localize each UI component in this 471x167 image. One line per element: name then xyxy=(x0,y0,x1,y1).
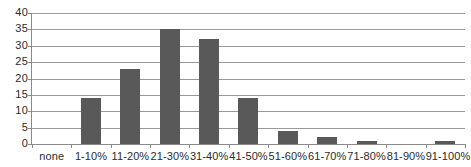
bar-slot xyxy=(189,13,228,144)
x-axis-category-label: 1-10% xyxy=(71,150,110,163)
x-axis-category-label: 71-80% xyxy=(347,150,386,163)
y-axis-tick-mark xyxy=(28,29,32,30)
bar-slot xyxy=(32,13,71,144)
y-axis-tick-labels: 0510152025303540 xyxy=(0,0,28,167)
x-axis-category-label: 31-40% xyxy=(189,150,228,163)
bar-chart: 0510152025303540 none1-10%11-20%21-30%31… xyxy=(0,0,471,167)
bar[interactable] xyxy=(160,29,180,144)
bar-slot xyxy=(71,13,110,144)
x-axis-category-label: 51-60% xyxy=(268,150,307,163)
x-axis-tick-mark xyxy=(426,144,427,148)
bar-slot xyxy=(386,13,425,144)
x-axis-tick-mark xyxy=(268,144,269,148)
bar-slot xyxy=(426,13,465,144)
bar[interactable] xyxy=(81,98,101,144)
y-axis-tick-label: 0 xyxy=(0,138,28,149)
x-axis-tick-mark xyxy=(32,144,33,148)
x-axis-tick-mark xyxy=(465,144,466,148)
x-axis-tick-mark xyxy=(189,144,190,148)
bar-slot xyxy=(229,13,268,144)
x-axis-category-label: 61-70% xyxy=(308,150,347,163)
bar-slot xyxy=(308,13,347,144)
x-axis-category-labels: none1-10%11-20%21-30%31-40%41-50%51-60%6… xyxy=(32,150,465,167)
y-axis-tick-label: 40 xyxy=(0,7,28,18)
y-axis-tick-mark xyxy=(28,95,32,96)
bar-slot xyxy=(150,13,189,144)
bar[interactable] xyxy=(278,131,298,144)
x-axis-tick-mark xyxy=(308,144,309,148)
x-axis-tick-mark xyxy=(347,144,348,148)
x-axis-tick-mark xyxy=(150,144,151,148)
y-axis-tick-mark xyxy=(28,79,32,80)
bar[interactable] xyxy=(120,69,140,144)
x-axis-tick-mark xyxy=(229,144,230,148)
x-axis-category-label: 41-50% xyxy=(229,150,268,163)
y-axis-tick-label: 20 xyxy=(0,73,28,84)
bar-slot xyxy=(347,13,386,144)
y-axis-tick-label: 35 xyxy=(0,23,28,34)
y-axis-tick-mark xyxy=(28,13,32,14)
y-axis-tick-label: 25 xyxy=(0,56,28,67)
bar[interactable] xyxy=(199,39,219,144)
x-axis-tick-marks xyxy=(32,144,465,149)
x-axis-category-label: none xyxy=(32,150,71,163)
x-axis-category-label: 21-30% xyxy=(150,150,189,163)
bar-slot xyxy=(268,13,307,144)
y-axis-tick-label: 30 xyxy=(0,40,28,51)
y-axis-tick-mark xyxy=(28,46,32,47)
y-axis-tick-mark xyxy=(28,62,32,63)
plot-area xyxy=(32,13,465,144)
x-axis-category-label: 91-100% xyxy=(426,150,465,163)
y-axis-tick-label: 15 xyxy=(0,89,28,100)
y-axis-tick-label: 5 xyxy=(0,122,28,133)
y-axis-tick-mark xyxy=(28,128,32,129)
x-axis-category-label: 81-90% xyxy=(386,150,425,163)
x-axis-tick-mark xyxy=(111,144,112,148)
bars-layer xyxy=(32,13,465,144)
x-axis-tick-mark xyxy=(71,144,72,148)
y-axis-tick-mark xyxy=(28,111,32,112)
x-axis-tick-mark xyxy=(386,144,387,148)
x-axis-category-label: 11-20% xyxy=(111,150,150,163)
y-axis-tick-mark xyxy=(28,144,32,145)
y-axis-tick-label: 10 xyxy=(0,105,28,116)
bar-slot xyxy=(111,13,150,144)
bar[interactable] xyxy=(238,98,258,144)
